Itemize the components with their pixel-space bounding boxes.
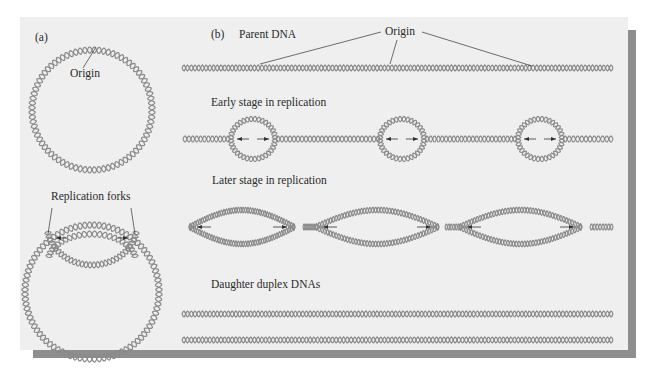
circular-chromosome-strand-2	[29, 47, 155, 173]
origin-pointer-2	[390, 40, 397, 64]
linear-origin-label: Origin	[385, 26, 415, 38]
early-fork-arrow-right-2-head	[413, 137, 418, 141]
panel-a-label: (a)	[35, 32, 48, 44]
later-bubble-2-top-strand-2	[315, 207, 439, 229]
early-fork-arrow-left-2-head	[386, 137, 391, 141]
parent-dna-title: Parent DNA	[239, 29, 296, 41]
replicating-chromosome-outer-strand-2	[22, 222, 162, 362]
early-fork-arrow-left-3-head	[524, 137, 529, 141]
origin-pointer-a	[83, 47, 96, 68]
later-bubble-3-bottom-strand-2	[459, 225, 582, 247]
replicating-chromosome-outer-strand-1	[22, 222, 162, 362]
later-bubble-1-bottom-strand-2	[189, 225, 295, 247]
daughter-duplex-title: Daughter duplex DNAs	[211, 279, 320, 291]
later-stage-title: Later stage in replication	[212, 175, 327, 187]
origin-pointer-3	[422, 32, 532, 66]
later-bubble-2-bottom-strand-2	[315, 225, 439, 247]
fork-pointer-right	[131, 208, 135, 234]
early-fork-arrow-right-3-head	[551, 137, 556, 141]
fork-pointer-left	[48, 208, 52, 234]
panel-b-label: (b)	[211, 29, 224, 41]
dna-replication-diagram	[0, 0, 653, 378]
early-stage-title: Early stage in replication	[211, 97, 326, 109]
circular-origin-label: Origin	[70, 68, 100, 80]
replication-forks-label: Replication forks	[51, 191, 131, 203]
later-bubble-3-top-strand-2	[459, 207, 582, 229]
early-fork-arrow-right-1-head	[264, 137, 269, 141]
early-fork-arrow-left-1-head	[237, 137, 242, 141]
circular-chromosome-strand-1	[29, 47, 155, 173]
later-bubble-1-top-strand-2	[189, 207, 295, 229]
